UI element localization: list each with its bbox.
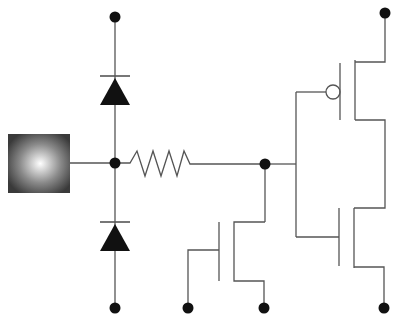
gnd-terminal-1 <box>110 303 121 314</box>
lower-diode-icon <box>100 222 130 251</box>
gate-wire <box>265 92 339 237</box>
junction-node-gate <box>260 159 271 170</box>
upper-diode-icon <box>100 76 130 105</box>
gnd-terminal-4 <box>379 303 390 314</box>
junction-node-pad <box>110 158 121 169</box>
input-pad <box>8 134 115 193</box>
circuit-diagram <box>0 0 398 323</box>
inverter-nmos-transistor-icon <box>339 208 384 308</box>
vdd-terminal-left <box>110 12 121 23</box>
gnd-terminal-3 <box>259 303 270 314</box>
vdd-terminal-right <box>380 8 391 19</box>
terminal-nodes <box>110 8 391 314</box>
gnd-terminal-2 <box>183 303 194 314</box>
pmos-transistor-icon <box>326 13 385 208</box>
resistor-icon <box>115 151 265 176</box>
ggnmos-transistor-icon <box>188 164 265 308</box>
